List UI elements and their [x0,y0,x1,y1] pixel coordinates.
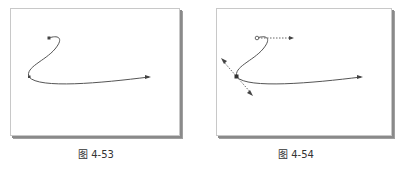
start-node-open-icon[interactable] [255,36,259,40]
canvas-panel [216,8,392,136]
figure-4-54: 图 4-54 [200,0,404,171]
end-arrow-icon [357,75,363,79]
arrow-down-right-icon [247,90,253,96]
figure-4-53: 图 4-53 [0,0,200,171]
figure-caption: 图 4-53 [78,146,114,161]
arrow-up-left-icon [221,58,227,64]
bezier-curve [28,37,149,84]
figure-caption: 图 4-54 [278,146,314,161]
curve-diagram-with-handles [217,9,391,135]
selected-node-icon[interactable] [235,75,239,79]
start-node-icon [48,37,51,40]
bezier-curve [236,37,361,84]
middle-node-icon [28,76,31,79]
end-node-icon [145,75,151,79]
curve-diagram [11,9,179,135]
arrow-right-icon [289,36,294,40]
canvas-panel [10,8,180,136]
